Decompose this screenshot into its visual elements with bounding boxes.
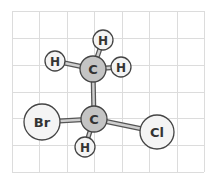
atom-label: H [50, 55, 60, 69]
atom-cl: Cl [140, 115, 174, 149]
atom-label: H [80, 141, 90, 155]
atoms-layer: CHHHCBrClH [24, 30, 174, 157]
atom-c: C [81, 106, 107, 132]
atom-c: C [80, 56, 106, 82]
atom-br: Br [24, 104, 60, 140]
atom-label: C [88, 62, 98, 77]
molecule-diagram: CHHHCBrClH [0, 0, 213, 181]
atom-h: H [93, 30, 113, 50]
atom-h: H [111, 57, 131, 77]
atom-label: Br [34, 115, 51, 130]
atom-h: H [45, 51, 65, 71]
atom-h: H [75, 137, 95, 157]
atom-label: Cl [150, 125, 164, 140]
atom-label: H [116, 61, 126, 75]
atom-label: C [89, 112, 99, 127]
atom-label: H [98, 34, 108, 48]
